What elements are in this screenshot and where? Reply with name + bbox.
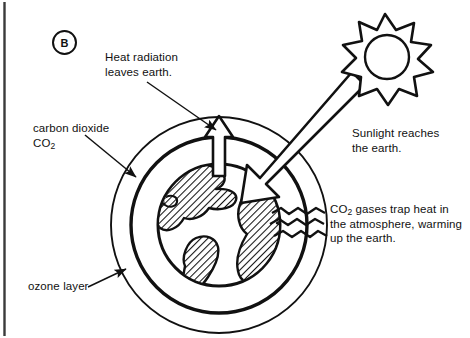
label-carbon-dioxide: carbon dioxideCO2: [33, 121, 109, 150]
label-ozone-layer: ozone layer: [28, 279, 89, 294]
panel-letter-badge: B: [52, 30, 77, 55]
label-co2-traps-heat: CO2 gases trap heat in the atmosphere, w…: [330, 202, 462, 246]
label-heat-radiation: Heat radiation leaves earth.: [105, 50, 178, 79]
figure-panel: B Heat radiation leaves earth. carbon di…: [0, 0, 470, 338]
incoming-sunlight-arrow: [241, 72, 365, 203]
label-sunlight-reaches-earth: Sunlight reaches the earth.: [352, 126, 439, 155]
label-carbon-dioxide-line1: carbon dioxide: [33, 122, 109, 134]
leader-ozone-layer: [88, 269, 126, 287]
label-co2-formula: CO2: [33, 137, 55, 149]
